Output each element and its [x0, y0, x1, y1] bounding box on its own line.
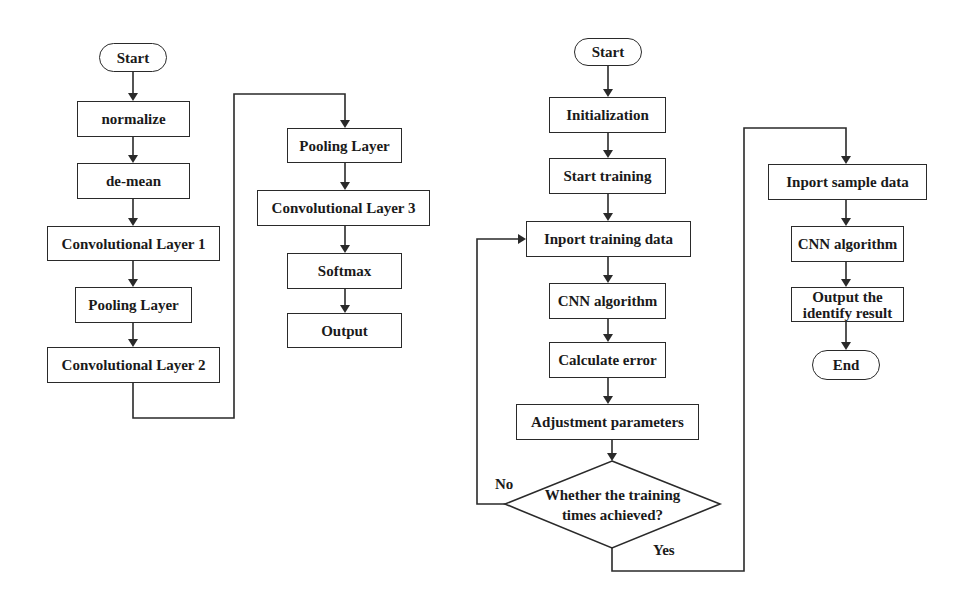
- calculate-error-step: Calculate error: [549, 342, 666, 378]
- cnn-algorithm-training-label: CNN algorithm: [558, 293, 658, 309]
- initialization-step: Initialization: [549, 97, 666, 133]
- output-identify-line-2: identify result: [803, 305, 892, 321]
- decision-label: Whether the training times achieved?: [530, 485, 695, 525]
- cnn-algorithm-identify-label: CNN algorithm: [798, 236, 898, 252]
- conv-layer-1-label: Convolutional Layer 1: [62, 236, 206, 252]
- pooling-layer-2-step: Pooling Layer: [287, 128, 402, 163]
- cnn-algorithm-training-step: CNN algorithm: [549, 283, 666, 319]
- inport-sample-data-step: Inport sample data: [768, 164, 927, 200]
- inport-sample-data-label: Inport sample data: [786, 174, 909, 190]
- normalize-label: normalize: [101, 111, 165, 127]
- start-training-step: Start training: [549, 158, 666, 194]
- de-mean-label: de-mean: [106, 173, 161, 189]
- de-mean-step: de-mean: [77, 163, 190, 199]
- conv-layer-2-step: Convolutional Layer 2: [47, 347, 220, 383]
- left-start-label: Start: [117, 50, 150, 66]
- calculate-error-label: Calculate error: [558, 352, 656, 368]
- conv-layer-3-step: Convolutional Layer 3: [257, 190, 430, 226]
- end-terminal: End: [812, 350, 880, 380]
- normalize-step: normalize: [77, 101, 190, 137]
- softmax-step: Softmax: [287, 253, 402, 289]
- pooling-layer-1-label: Pooling Layer: [88, 297, 178, 313]
- output-step: Output: [287, 313, 402, 348]
- inport-training-data-step: Inport training data: [526, 221, 691, 257]
- output-identify-line-1: Output the: [812, 289, 882, 305]
- conv-layer-2-label: Convolutional Layer 2: [62, 357, 206, 373]
- initialization-label: Initialization: [566, 107, 649, 123]
- decision-line-1: Whether the training: [530, 485, 695, 505]
- training-start-terminal: Start: [574, 38, 642, 66]
- inport-training-data-label: Inport training data: [544, 231, 673, 247]
- conv-layer-3-label: Convolutional Layer 3: [272, 200, 416, 216]
- pooling-layer-1-step: Pooling Layer: [75, 287, 192, 323]
- start-training-label: Start training: [564, 168, 652, 184]
- cnn-algorithm-identify-step: CNN algorithm: [791, 226, 904, 262]
- decision-line-2: times achieved?: [530, 505, 695, 525]
- flowchart-canvas: Start normalize de-mean Convolutional La…: [0, 0, 970, 602]
- softmax-label: Softmax: [318, 263, 371, 279]
- output-label: Output: [321, 323, 368, 339]
- output-identify-result-step: Output the identify result: [791, 287, 904, 322]
- training-start-label: Start: [592, 44, 625, 60]
- pooling-layer-2-label: Pooling Layer: [299, 138, 389, 154]
- no-branch-label: No: [495, 476, 513, 493]
- adjustment-parameters-step: Adjustment parameters: [516, 404, 699, 440]
- adjustment-parameters-label: Adjustment parameters: [531, 414, 684, 430]
- left-start-terminal: Start: [99, 43, 167, 72]
- end-label: End: [833, 357, 860, 373]
- yes-branch-label: Yes: [653, 542, 675, 559]
- conv-layer-1-step: Convolutional Layer 1: [47, 226, 220, 261]
